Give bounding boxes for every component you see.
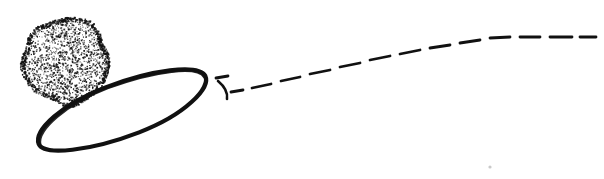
stray-speck [488, 165, 491, 168]
canvas-background [0, 0, 604, 179]
illustration-canvas [0, 0, 604, 179]
trajectory-dash [231, 90, 243, 92]
trajectory-dash [216, 76, 228, 78]
figure-svg [0, 0, 604, 179]
trajectory-dash [490, 37, 510, 38]
